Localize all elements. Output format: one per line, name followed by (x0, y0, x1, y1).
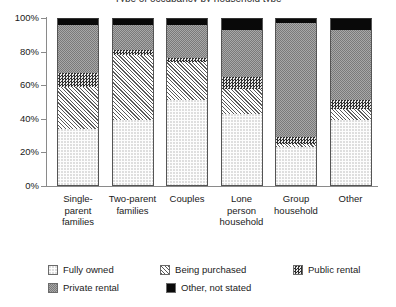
y-axis-tick-label: 0% (25, 181, 39, 190)
bar-segment[interactable] (221, 114, 263, 186)
bar-segment[interactable] (57, 129, 99, 186)
legend-label: Public rental (308, 264, 360, 275)
bar-segment[interactable] (275, 23, 317, 137)
legend-label: Fully owned (63, 264, 114, 275)
category-label-line: household (206, 216, 278, 228)
legend-item[interactable]: Private rental (48, 282, 166, 293)
category-label-line: Other (315, 193, 387, 205)
bar-segment[interactable] (166, 100, 208, 186)
legend-label: Private rental (63, 282, 119, 293)
legend-swatch-icon (293, 265, 303, 275)
bar-segment[interactable] (112, 55, 154, 121)
y-axis-tick-label: 20% (20, 147, 39, 156)
bar-segment[interactable] (275, 147, 317, 186)
bar-segment[interactable] (221, 30, 263, 77)
legend-item[interactable]: Public rental (293, 264, 388, 275)
bar-segment[interactable] (221, 18, 263, 30)
bar-other[interactable] (330, 18, 372, 186)
bar-segment[interactable] (275, 137, 317, 144)
legend-label: Other, not stated (181, 282, 251, 293)
bar-segment[interactable] (330, 120, 372, 186)
bar-group-household[interactable] (275, 18, 317, 186)
chart-legend: Fully ownedBeing purchasedPublic rental … (48, 264, 388, 300)
legend-row-1: Fully ownedBeing purchasedPublic rental (48, 264, 388, 275)
bar-segment[interactable] (57, 18, 99, 25)
legend-item[interactable]: Being purchased (160, 264, 293, 275)
bar-lone-person-household[interactable] (221, 18, 263, 186)
category-label-line: household (260, 205, 332, 217)
legend-item[interactable]: Fully owned (48, 264, 160, 275)
bar-segment[interactable] (330, 30, 372, 101)
bar-single-parent-families[interactable] (57, 18, 99, 186)
legend-swatch-icon (48, 283, 58, 293)
legend-swatch-icon (160, 265, 170, 275)
bar-couples[interactable] (166, 18, 208, 186)
bar-segment[interactable] (330, 18, 372, 30)
bar-segment[interactable] (166, 25, 208, 59)
bar-segment[interactable] (57, 25, 99, 74)
plot-area (47, 18, 377, 186)
legend-item[interactable]: Other, not stated (166, 282, 306, 293)
y-axis-tick-label: 40% (20, 114, 39, 123)
bar-segment[interactable] (330, 100, 372, 108)
bar-segment[interactable] (166, 62, 208, 101)
bar-segment[interactable] (221, 89, 263, 114)
legend-row-2: Private rentalOther, not stated (48, 282, 388, 293)
y-axis-tick-label: 100% (15, 13, 39, 22)
legend-swatch-icon (166, 283, 176, 293)
legend-label: Being purchased (175, 264, 246, 275)
bar-segment[interactable] (112, 18, 154, 25)
bar-segment[interactable] (221, 77, 263, 89)
y-axis-tick-label: 60% (20, 80, 39, 89)
chart-title: Type of occupancy by household type (0, 0, 396, 2)
bar-segment[interactable] (112, 25, 154, 50)
category-label-line: families (97, 205, 169, 217)
y-axis-tick-label: 80% (20, 47, 39, 56)
y-axis-tick (41, 186, 47, 187)
legend-swatch-icon (48, 265, 58, 275)
bar-segment[interactable] (112, 120, 154, 186)
bar-segment[interactable] (57, 73, 99, 86)
category-label: Other (315, 193, 387, 205)
bar-segment[interactable] (57, 87, 99, 129)
x-axis-line (46, 186, 378, 187)
bar-segment[interactable] (166, 18, 208, 25)
bar-two-parent-families[interactable] (112, 18, 154, 186)
category-label-line: families (42, 216, 114, 228)
bar-segment[interactable] (330, 109, 372, 121)
